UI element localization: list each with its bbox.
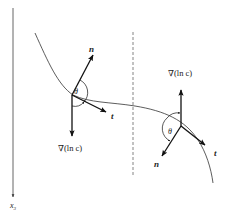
left-point-vectors: n t ∇(ln c) θ xyxy=(58,44,114,153)
left-tangent-arrow xyxy=(72,95,106,112)
right-point-vectors: ∇(ln c) n t θ xyxy=(154,68,217,169)
left-gradient-label: ∇(ln c) xyxy=(58,143,82,153)
right-gradient-label: ∇(ln c) xyxy=(168,68,192,78)
axis-label: x3 xyxy=(9,201,17,211)
left-tangent-label: t xyxy=(111,111,114,121)
right-tangent-arrow xyxy=(181,126,205,145)
x3-axis: x3 xyxy=(9,8,17,211)
left-normal-label: n xyxy=(89,44,94,54)
left-angle-arc-lower xyxy=(72,102,84,106)
left-angle-label: θ xyxy=(74,87,78,96)
right-angle-label: θ xyxy=(168,127,172,136)
interface-curve xyxy=(35,33,213,183)
right-tangent-label: t xyxy=(214,148,217,158)
interface-diagram: x3 n t ∇(ln c) θ ∇(ln c) n t θ xyxy=(0,0,232,219)
right-normal-label: n xyxy=(154,159,159,169)
